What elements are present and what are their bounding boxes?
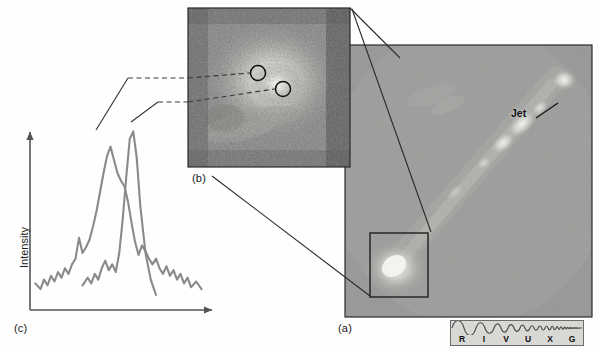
panel-c-label: (c) bbox=[14, 322, 27, 334]
panel-b-image bbox=[188, 8, 350, 167]
peak1-riser bbox=[96, 78, 128, 130]
spectrum-letter-V: V bbox=[495, 335, 517, 346]
figure-graphics-layer bbox=[0, 0, 598, 355]
intensity-axis-label: Intensity bbox=[18, 227, 30, 268]
spectrum-letter-I: I bbox=[473, 335, 495, 346]
panel-c-curves bbox=[35, 131, 201, 294]
redshifted-peak-curve bbox=[83, 131, 157, 294]
blueshifted-peak-curve bbox=[35, 147, 201, 290]
spectrum-wave-icon bbox=[451, 321, 583, 335]
figure-root: Intensity (c) (b) (a) Jet R I V U X G bbox=[0, 0, 598, 355]
em-spectrum-band-indicator: R I V U X G bbox=[450, 320, 584, 346]
panel-a-label: (a) bbox=[338, 322, 352, 334]
peak2-riser bbox=[131, 102, 158, 122]
panel-b-label: (b) bbox=[192, 172, 206, 184]
spectrum-letter-G: G bbox=[561, 335, 583, 346]
spectrum-letter-row: R I V U X G bbox=[451, 335, 583, 346]
spectrum-letter-R: R bbox=[451, 335, 473, 346]
spectrum-letter-U: U bbox=[517, 335, 539, 346]
spectrum-letter-X: X bbox=[539, 335, 561, 346]
jet-label: Jet bbox=[511, 107, 526, 119]
